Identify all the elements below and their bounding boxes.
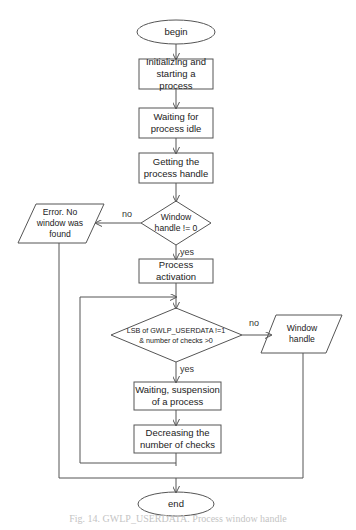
window-check-no-label: no xyxy=(122,209,132,219)
init-label: Initializing and starting a process xyxy=(139,59,213,89)
lsb-check-no-label: no xyxy=(249,318,259,328)
suspend-label: Waiting, suspension of a process xyxy=(134,382,221,410)
activate-label: Process activation xyxy=(139,259,213,283)
window-check-label: Window handle != 0 xyxy=(152,209,200,237)
lsb-check-yes-label: yes xyxy=(180,364,194,374)
window-check-yes-label: yes xyxy=(180,247,194,257)
get-handle-label: Getting the process handle xyxy=(143,153,209,183)
decrease-label: Decreasing the number of checks xyxy=(134,425,221,453)
error-label: Error. No window was found xyxy=(30,204,90,243)
wait-idle-label: Waiting for process idle xyxy=(143,108,209,138)
lsb-check-label: LSB of GWLP_USERDATA !=1 & number of che… xyxy=(126,325,226,347)
window-handle-label: Window handle xyxy=(276,315,328,353)
figure-caption: Fig. 14. GWLP_USERDATA. Process window h… xyxy=(0,513,356,524)
begin-label: begin xyxy=(137,20,215,44)
